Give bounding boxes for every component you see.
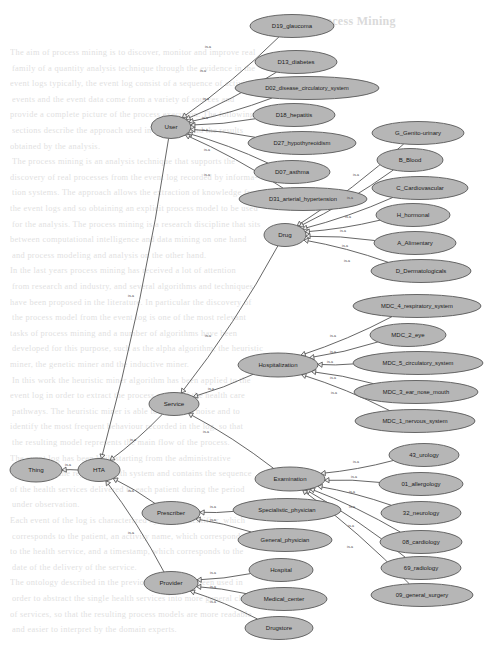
graph-node[interactable]: Examination: [255, 467, 325, 491]
graph-node[interactable]: H_hormonal: [376, 204, 450, 227]
edge-label-is-a: is-a: [128, 489, 134, 493]
node-label: G_Genito-urinary: [395, 130, 441, 136]
graph-node[interactable]: 08_cardiology: [380, 531, 462, 554]
graph-node[interactable]: 69_radiology: [381, 557, 461, 580]
edge-label-is-a: is-a: [128, 294, 134, 298]
node-label: H_hormonal: [397, 212, 430, 218]
graph-node[interactable]: D07_asthma: [254, 161, 330, 184]
is-a-edge: [197, 587, 246, 594]
edge-label-is-a: is-a: [353, 173, 359, 177]
generalization-arrowhead: [200, 510, 204, 515]
graph-node[interactable]: Specialistic_physician: [233, 499, 341, 522]
edge-label-is-a: is-a: [65, 463, 71, 467]
generalization-arrowhead: [325, 478, 329, 483]
graph-node[interactable]: 01_allergology: [379, 473, 463, 496]
edge-label-is-a: is-a: [210, 518, 216, 522]
node-label: 01_allergology: [401, 481, 440, 487]
node-label: MDC_5_circulatory_system: [383, 360, 454, 366]
graph-node[interactable]: Provider: [144, 572, 198, 595]
node-label: Service: [164, 400, 185, 407]
graph-node[interactable]: Drugstore: [245, 617, 313, 640]
node-label: MDC_1_nervous_system: [382, 418, 447, 424]
is-a-edge: [106, 481, 164, 572]
edge-label-is-a: is-a: [130, 438, 136, 442]
is-a-edge: [200, 511, 233, 512]
graph-node[interactable]: MDC_4_respiratory_system: [353, 295, 481, 318]
graph-node[interactable]: G_Genito-urinary: [372, 122, 464, 145]
node-label: 09_general_surgery: [396, 592, 448, 598]
node-label: Prescriber: [157, 509, 185, 516]
graph-node[interactable]: Drug: [264, 224, 306, 247]
is-a-edge: [196, 519, 251, 532]
graph-node[interactable]: A_Alimentary: [374, 232, 456, 255]
graph-node[interactable]: 09_general_surgery: [371, 584, 473, 607]
edge-label-is-a: is-a: [208, 387, 214, 391]
edge-label-is-a: is-a: [345, 215, 351, 219]
edge-label-is-a: is-a: [202, 116, 208, 120]
ontology-diagram: 4. Process MiningThe aim of process mini…: [0, 0, 489, 654]
edge-label-is-a: is-a: [331, 391, 337, 395]
graph-node[interactable]: General_physician: [238, 529, 332, 552]
is-a-edge: [312, 372, 374, 384]
graph-node[interactable]: Prescriber: [142, 502, 200, 525]
node-label: A_Alimentary: [397, 240, 433, 246]
graph-node[interactable]: HTA: [78, 459, 120, 482]
edge-label-is-a: is-a: [204, 148, 210, 152]
graph-node[interactable]: Thing: [10, 458, 62, 482]
graph-node[interactable]: MDC_3_ear_nose_mouth: [354, 381, 478, 404]
node-label: Thing: [28, 466, 44, 473]
node-label: MDC_3_ear_nose_mouth: [383, 389, 449, 395]
graph-node[interactable]: D_Dermatologicals: [371, 260, 471, 283]
node-label: General_physician: [261, 537, 310, 543]
graph-node[interactable]: D27_hypothyreoidism: [248, 132, 356, 155]
is-a-edge: [182, 37, 279, 118]
edge-label-is-a: is-a: [330, 350, 336, 354]
generalization-arrowhead: [181, 388, 186, 393]
graph-node[interactable]: MDC_5_circulatory_system: [353, 352, 483, 375]
graph-node[interactable]: Service: [149, 393, 199, 416]
graph-node[interactable]: D19_glaucoma: [250, 15, 334, 38]
edge-label-is-a: is-a: [340, 229, 346, 233]
is-a-edge: [188, 413, 273, 468]
graph-node[interactable]: C_Cardiovascular: [372, 177, 468, 200]
node-label: Hospitalization: [258, 362, 297, 368]
edge-label-is-a: is-a: [205, 334, 211, 338]
edge-label-is-a: is-a: [203, 430, 209, 434]
graph-node[interactable]: B_Blood: [377, 149, 443, 172]
graph-node[interactable]: D02_disease_circulatory_system: [235, 77, 379, 100]
generalization-arrowhead: [106, 481, 111, 486]
graph-node[interactable]: D18_hepatitis: [253, 104, 335, 127]
graph-node[interactable]: 43_urology: [389, 444, 459, 467]
edge-label-is-a: is-a: [330, 334, 336, 338]
graph-node[interactable]: Medical_center: [241, 588, 327, 611]
edge-label-is-a: is-a: [348, 524, 354, 528]
graph-node[interactable]: Hospital: [249, 559, 313, 582]
is-a-edge: [318, 364, 353, 365]
edge-label-is-a: is-a: [210, 600, 216, 604]
edge-label-is-a: is-a: [351, 475, 357, 479]
edge-label-is-a: is-a: [344, 259, 350, 263]
node-label: 43_urology: [409, 452, 439, 458]
node-label: 69_radiology: [404, 565, 438, 571]
graph-node[interactable]: MDC_1_nervous_system: [355, 410, 475, 433]
generalization-arrowhead: [182, 113, 187, 118]
node-label: Medical_center: [264, 596, 305, 602]
node-label: Examination: [273, 476, 306, 482]
graph-node[interactable]: User: [151, 116, 191, 139]
edge-label-is-a: is-a: [327, 360, 333, 364]
edge-label-is-a: is-a: [353, 460, 359, 464]
graph-node[interactable]: MDC_2_eye: [370, 324, 446, 347]
node-label: C_Cardiovascular: [396, 185, 444, 191]
is-a-edge: [306, 236, 375, 240]
edge-label-is-a: is-a: [210, 585, 216, 589]
edge-label-is-a: is-a: [349, 490, 355, 494]
edge-layer: [62, 37, 409, 619]
node-label: D19_glaucoma: [272, 23, 313, 29]
taxonomy-graph-canvas: ThingHTAUserDrugServiceHospitalizationEx…: [0, 0, 489, 654]
graph-node[interactable]: Hospitalization: [238, 353, 318, 377]
edge-label-is-a: is-a: [203, 97, 209, 101]
node-label: 08_cardiology: [402, 539, 439, 545]
graph-node[interactable]: D13_diabetes: [255, 51, 337, 74]
generalization-arrowhead: [318, 362, 322, 367]
graph-node[interactable]: 32_neurology: [381, 502, 461, 525]
